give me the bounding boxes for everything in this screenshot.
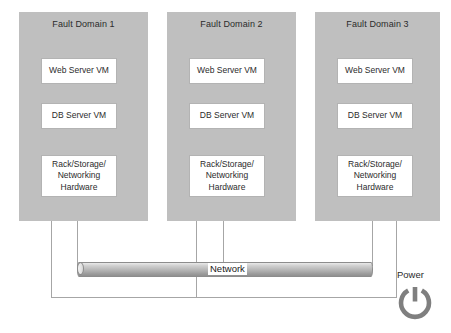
power-icon[interactable] [396,283,434,321]
fault-domain-1-web-server-vm-label: Web Server VM [49,65,109,77]
connector-fd2-network [223,221,224,266]
fault-domain-1-db-server-vm-label: DB Server VM [52,110,106,122]
fault-domain-3-rack-hardware[interactable]: Rack/Storage/ Networking Hardware [337,155,413,197]
fault-domain-2-rack-hardware-line-1: Rack/Storage/ [200,159,254,171]
connector-fd3-network [372,221,373,266]
network-label: Network [208,263,247,275]
fault-domain-3-rack-hardware-line-2: Networking [354,170,397,182]
fault-domain-3-title: Fault Domain 3 [315,19,440,30]
fault-domain-2-db-server-vm[interactable]: DB Server VM [189,103,265,129]
fault-domain-2-rack-hardware-line-3: Hardware [209,182,246,194]
fault-domain-3-web-server-vm-label: Web Server VM [345,65,405,77]
fault-domain-2-web-server-vm-label: Web Server VM [197,65,257,77]
fault-domain-2-db-server-vm-label: DB Server VM [200,110,254,122]
fault-domain-2-title: Fault Domain 2 [167,19,296,30]
connector-fd2-power [196,221,197,297]
diagram-canvas: Fault Domain 1 Web Server VM DB Server V… [0,0,451,333]
fault-domain-3-rack-hardware-line-3: Hardware [357,182,394,194]
fault-domain-3-web-server-vm[interactable]: Web Server VM [337,58,413,84]
fault-domain-1-web-server-vm[interactable]: Web Server VM [41,58,117,84]
fault-domain-2-rack-hardware[interactable]: Rack/Storage/ Networking Hardware [189,155,265,197]
fault-domain-3-rack-hardware-line-1: Rack/Storage/ [348,159,402,171]
fault-domain-1-rack-hardware[interactable]: Rack/Storage/ Networking Hardware [41,155,117,197]
power-label: Power [397,269,424,281]
fault-domain-2-rack-hardware-line-2: Networking [206,170,249,182]
fault-domain-1-db-server-vm[interactable]: DB Server VM [41,103,117,129]
fault-domain-1-rack-hardware-line-2: Networking [58,170,101,182]
fault-domain-3-db-server-vm[interactable]: DB Server VM [337,103,413,129]
fault-domain-2-web-server-vm[interactable]: Web Server VM [189,58,265,84]
fault-domain-1-rack-hardware-line-3: Hardware [61,182,98,194]
fault-domain-1-rack-hardware-line-1: Rack/Storage/ [52,159,106,171]
fault-domain-1-title: Fault Domain 1 [19,19,148,30]
power-bus-line [51,297,397,298]
connector-fd1-network [77,221,78,266]
connector-fd1-power [51,221,52,297]
power-icon-svg [396,283,434,321]
fault-domain-3-db-server-vm-label: DB Server VM [348,110,402,122]
network-bus-cap-icon [77,262,84,275]
